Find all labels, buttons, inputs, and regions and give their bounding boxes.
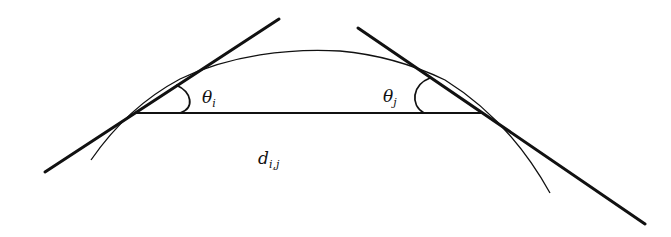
label-theta-i: θi — [202, 87, 216, 110]
label-theta-j: θj — [383, 86, 397, 109]
curve — [91, 50, 550, 193]
tangent-line-i — [45, 19, 279, 172]
angle-arc-theta-j — [415, 78, 430, 113]
curve-tangent-diagram: θi θj di,j — [0, 0, 671, 237]
label-d-ij: di,j — [258, 148, 280, 171]
angle-arc-theta-i — [176, 85, 190, 113]
tangent-line-j — [358, 28, 645, 224]
